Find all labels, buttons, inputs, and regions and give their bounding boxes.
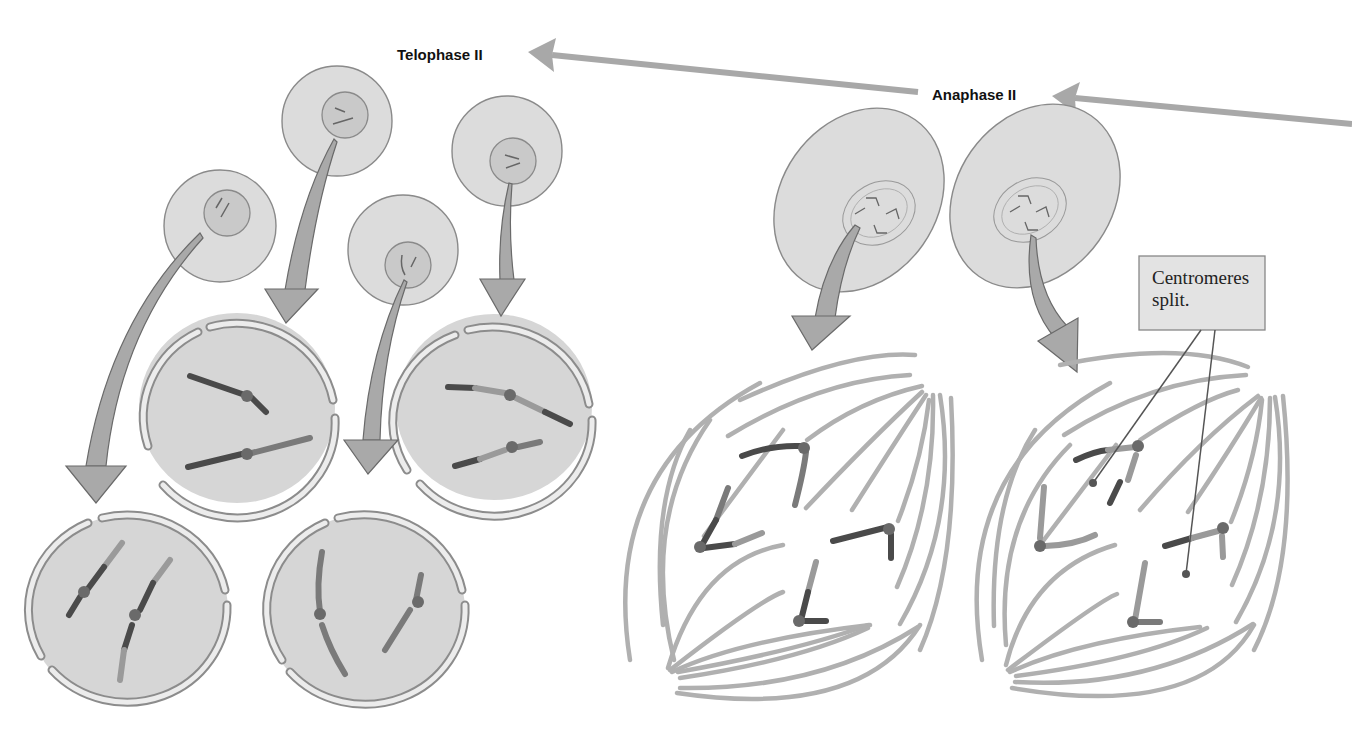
telophase-enlarged-cell-c xyxy=(28,515,228,705)
anaphase-spindle-2 xyxy=(977,353,1288,696)
anaphase-spindle-1 xyxy=(625,355,952,699)
telophase-small-cell-2 xyxy=(282,66,392,176)
callout-line-2: split. xyxy=(1152,289,1189,310)
callout-line-1: Centromeres xyxy=(1152,267,1249,288)
stage-arrow-into-anaphase xyxy=(1052,82,1352,124)
meiosis-diagram: Telophase II Anaphase II xyxy=(0,0,1352,741)
anaphase-small-cell-1 xyxy=(739,75,979,325)
telophase-enlarged-cell-d xyxy=(265,515,465,705)
telophase-enlarged-cell-a xyxy=(139,313,335,518)
telophase-enlarged-cell-b xyxy=(393,314,592,516)
leader-endpoint-2 xyxy=(1182,570,1190,578)
stage-arrow-anaphase-to-telophase xyxy=(528,38,918,92)
leader-endpoint-1 xyxy=(1089,479,1097,487)
stage-label-telophase-ii: Telophase II xyxy=(397,46,483,63)
stage-label-anaphase-ii: Anaphase II xyxy=(932,86,1016,103)
